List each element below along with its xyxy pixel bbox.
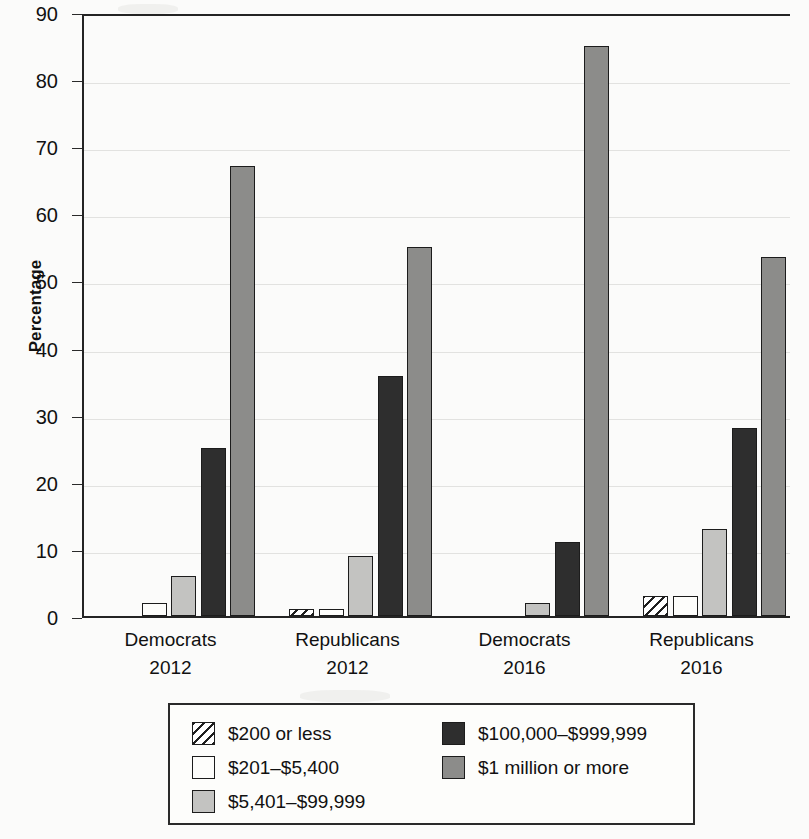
bar-group bbox=[84, 16, 261, 616]
bar bbox=[407, 247, 432, 616]
x-axis-labels: Democrats2012Republicans2012Democrats201… bbox=[82, 626, 790, 690]
bar bbox=[761, 257, 786, 616]
x-tick-label-year: 2016 bbox=[436, 654, 613, 682]
x-tick-label-party: Republicans bbox=[649, 629, 754, 650]
bar-group bbox=[438, 16, 615, 616]
legend-label: $5,401–$99,999 bbox=[228, 790, 365, 813]
bar bbox=[378, 376, 403, 616]
plot-area bbox=[82, 14, 790, 618]
bar bbox=[201, 448, 226, 616]
bar bbox=[289, 609, 314, 616]
y-tick-mark bbox=[72, 215, 82, 216]
legend-swatch bbox=[192, 790, 215, 813]
y-tick-label: 10 bbox=[36, 541, 58, 561]
y-tick-mark bbox=[72, 14, 82, 15]
x-tick-label-year: 2012 bbox=[259, 654, 436, 682]
bar bbox=[525, 603, 550, 616]
legend-swatch bbox=[442, 722, 465, 745]
y-tick-label: 0 bbox=[47, 608, 58, 628]
y-tick-mark bbox=[72, 81, 82, 82]
bar bbox=[555, 542, 580, 616]
y-tick-mark bbox=[72, 618, 82, 619]
bar bbox=[171, 576, 196, 616]
legend-swatch bbox=[192, 722, 215, 745]
legend-column-2: $100,000–$999,999$1 million or more bbox=[442, 717, 647, 785]
y-tick-label: 70 bbox=[36, 138, 58, 158]
y-axis-ticks: 9080706050403020100 bbox=[0, 0, 72, 640]
y-tick-label: 90 bbox=[36, 4, 58, 24]
chart-legend: $200 or less$201–$5,400$5,401–$99,999 $1… bbox=[168, 703, 695, 825]
x-tick-label: Democrats2016 bbox=[436, 626, 613, 682]
legend-item: $201–$5,400 bbox=[192, 751, 365, 784]
y-tick-mark bbox=[72, 148, 82, 149]
legend-label: $201–$5,400 bbox=[228, 756, 339, 779]
legend-item: $200 or less bbox=[192, 717, 365, 750]
bar bbox=[584, 46, 609, 616]
y-tick-label: 60 bbox=[36, 205, 58, 225]
x-tick-label-party: Democrats bbox=[479, 629, 571, 650]
legend-column-1: $200 or less$201–$5,400$5,401–$99,999 bbox=[192, 717, 365, 819]
legend-swatch bbox=[192, 756, 215, 779]
bar bbox=[142, 603, 167, 616]
bar bbox=[348, 556, 373, 616]
bar-chart-figure: Percentage 9080706050403020100 Democrats… bbox=[0, 0, 809, 839]
legend-item: $5,401–$99,999 bbox=[192, 785, 365, 818]
legend-label: $1 million or more bbox=[478, 756, 629, 779]
x-tick-label-year: 2016 bbox=[613, 654, 790, 682]
x-tick-label: Democrats2012 bbox=[82, 626, 259, 682]
y-tick-label: 50 bbox=[36, 272, 58, 292]
x-tick-label: Republicans2016 bbox=[613, 626, 790, 682]
x-tick-label-year: 2012 bbox=[82, 654, 259, 682]
x-tick-label-party: Democrats bbox=[125, 629, 217, 650]
y-tick-mark bbox=[72, 282, 82, 283]
legend-item: $100,000–$999,999 bbox=[442, 717, 647, 750]
y-tick-mark bbox=[72, 551, 82, 552]
y-tick-label: 20 bbox=[36, 474, 58, 494]
legend-item: $1 million or more bbox=[442, 751, 647, 784]
bar-group bbox=[261, 16, 438, 616]
y-tick-label: 40 bbox=[36, 340, 58, 360]
x-tick-label-party: Republicans bbox=[295, 629, 400, 650]
x-tick-label: Republicans2012 bbox=[259, 626, 436, 682]
legend-label: $200 or less bbox=[228, 722, 332, 745]
y-tick-label: 80 bbox=[36, 71, 58, 91]
bar bbox=[230, 166, 255, 616]
y-tick-mark bbox=[72, 350, 82, 351]
bar bbox=[319, 609, 344, 616]
bar-group bbox=[615, 16, 792, 616]
y-tick-mark bbox=[72, 484, 82, 485]
bar bbox=[673, 596, 698, 616]
legend-label: $100,000–$999,999 bbox=[478, 722, 647, 745]
bar bbox=[702, 529, 727, 616]
y-tick-mark bbox=[72, 417, 82, 418]
legend-swatch bbox=[442, 756, 465, 779]
y-tick-label: 30 bbox=[36, 407, 58, 427]
bar bbox=[643, 596, 668, 616]
bar bbox=[732, 428, 757, 616]
